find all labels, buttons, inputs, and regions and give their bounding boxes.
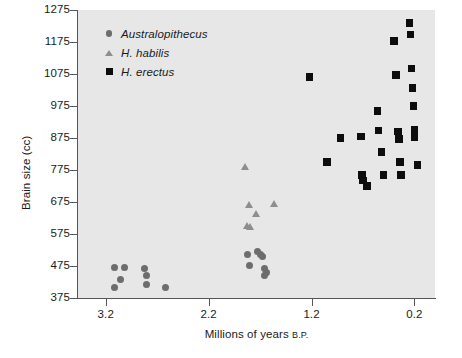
data-point bbox=[337, 134, 345, 142]
legend-item-label: H. erectus bbox=[121, 66, 174, 78]
data-point bbox=[406, 19, 414, 27]
y-tick-mark bbox=[70, 106, 77, 107]
y-tick-mark bbox=[70, 10, 77, 11]
data-point bbox=[270, 200, 278, 207]
y-tick-label: 575 bbox=[30, 227, 70, 239]
data-point bbox=[410, 102, 418, 110]
circle-marker-icon bbox=[102, 27, 116, 41]
y-tick-mark bbox=[70, 202, 77, 203]
y-tick-mark bbox=[70, 266, 77, 267]
x-tick-label: 3.2 bbox=[84, 308, 128, 320]
y-axis-line bbox=[77, 10, 78, 299]
y-tick-label: 375 bbox=[30, 291, 70, 303]
data-point bbox=[374, 107, 382, 115]
x-tick-mark bbox=[312, 299, 313, 306]
triangle-marker-icon bbox=[102, 46, 116, 60]
data-point bbox=[395, 135, 403, 143]
data-point bbox=[357, 133, 365, 141]
data-point bbox=[246, 223, 254, 230]
scatter-chart-figure: 375475575675775875975107511751275 3.22.2… bbox=[0, 0, 462, 358]
data-point bbox=[306, 73, 314, 81]
data-point bbox=[414, 161, 422, 169]
data-point bbox=[111, 264, 118, 271]
data-point bbox=[252, 210, 260, 217]
y-axis-label: Brain size (cc) bbox=[20, 136, 32, 210]
y-tick-mark bbox=[70, 234, 77, 235]
x-tick-mark bbox=[414, 299, 415, 306]
data-point bbox=[121, 264, 128, 271]
x-tick-label: 1.2 bbox=[290, 308, 334, 320]
data-point bbox=[245, 201, 253, 208]
legend-item-square[interactable]: H. erectus bbox=[102, 63, 242, 80]
y-tick-label: 875 bbox=[30, 131, 70, 143]
y-tick-mark bbox=[70, 42, 77, 43]
legend-item-label: H. habilis bbox=[121, 47, 169, 59]
data-point bbox=[363, 182, 371, 190]
data-point bbox=[241, 163, 249, 170]
data-point bbox=[397, 171, 405, 179]
y-tick-label: 1075 bbox=[30, 67, 70, 79]
data-point bbox=[409, 84, 417, 92]
x-axis-line bbox=[77, 298, 436, 299]
legend-item-triangle[interactable]: H. habilis bbox=[102, 44, 242, 61]
x-tick-label: 2.2 bbox=[187, 308, 231, 320]
y-tick-label: 975 bbox=[30, 99, 70, 111]
x-tick-mark bbox=[106, 299, 107, 306]
y-tick-label: 675 bbox=[30, 195, 70, 207]
data-point bbox=[380, 171, 388, 179]
y-tick-mark bbox=[70, 298, 77, 299]
data-point bbox=[407, 31, 415, 39]
data-point bbox=[408, 65, 416, 73]
y-tick-mark bbox=[70, 170, 77, 171]
y-tick-label: 1175 bbox=[30, 35, 70, 47]
x-axis-label: Millions of years B.P. bbox=[78, 328, 435, 340]
y-tick-label: 475 bbox=[30, 259, 70, 271]
data-point bbox=[392, 71, 400, 79]
y-tick-label: 1275 bbox=[30, 3, 70, 15]
legend-item-circle[interactable]: Australopithecus bbox=[102, 25, 242, 42]
data-point bbox=[111, 284, 118, 291]
y-tick-mark bbox=[70, 138, 77, 139]
data-point bbox=[323, 158, 331, 166]
data-point bbox=[375, 127, 383, 135]
x-tick-mark bbox=[209, 299, 210, 306]
x-tick-label: 0.2 bbox=[392, 308, 436, 320]
y-tick-mark bbox=[70, 74, 77, 75]
square-marker-icon bbox=[102, 65, 116, 79]
data-point bbox=[246, 262, 253, 269]
data-point bbox=[117, 276, 124, 283]
data-point bbox=[396, 158, 404, 166]
data-point bbox=[411, 133, 419, 141]
y-tick-label: 775 bbox=[30, 163, 70, 175]
data-point bbox=[378, 148, 386, 156]
data-point bbox=[162, 284, 169, 291]
legend: AustralopithecusH. habilisH. erectus bbox=[102, 25, 242, 82]
data-point bbox=[259, 253, 266, 260]
data-point bbox=[390, 37, 398, 45]
legend-item-label: Australopithecus bbox=[121, 28, 208, 40]
